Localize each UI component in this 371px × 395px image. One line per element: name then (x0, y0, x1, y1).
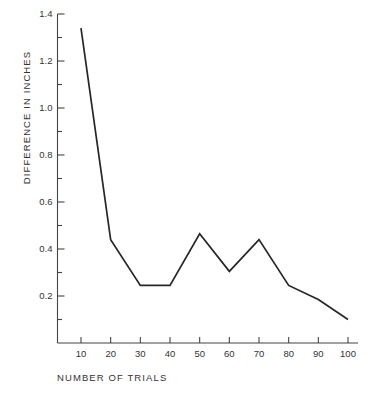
data-series-group (81, 28, 348, 319)
line-chart-plot: 0.20.40.60.81.01.21.4 102030405060708090… (0, 0, 371, 395)
x-axis: 102030405060708090100 (58, 337, 359, 359)
x-tick-label: 70 (254, 348, 265, 359)
chart-figure: DIFFERENCE IN INCHES NUMBER OF TRIALS 0.… (0, 0, 371, 395)
x-tick-label: 80 (283, 348, 294, 359)
y-tick-label: 0.8 (39, 149, 52, 160)
y-tick-label: 0.4 (39, 243, 52, 254)
y-axis: 0.20.40.60.81.01.21.4 (39, 8, 64, 343)
x-tick-label: 20 (105, 348, 116, 359)
data-line-difference (81, 28, 348, 319)
y-tick-label: 1.0 (39, 102, 52, 113)
x-tick-label: 10 (76, 348, 87, 359)
y-tick-label: 1.2 (39, 55, 52, 66)
x-tick-label: 90 (313, 348, 324, 359)
x-tick-label: 30 (135, 348, 146, 359)
x-tick-label: 40 (165, 348, 176, 359)
y-tick-label: 0.6 (39, 196, 52, 207)
y-tick-label: 0.2 (39, 290, 52, 301)
x-tick-label: 100 (340, 348, 356, 359)
y-tick-label: 1.4 (39, 8, 52, 19)
x-tick-label: 60 (224, 348, 235, 359)
x-tick-label: 50 (194, 348, 205, 359)
